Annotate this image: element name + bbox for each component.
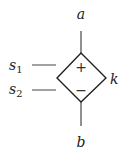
label-s1: s1 <box>9 57 23 75</box>
label-s1-base: s <box>9 57 16 73</box>
label-s2: s2 <box>9 81 23 99</box>
minus-sign: − <box>75 82 87 98</box>
label-a: a <box>77 6 85 22</box>
label-s2-sub: 2 <box>16 88 22 99</box>
label-b: b <box>77 134 86 150</box>
label-k: k <box>110 71 118 87</box>
dependent-source-diagram: + − a b k s1 s2 <box>0 0 124 152</box>
label-s1-sub: 1 <box>16 64 22 75</box>
label-s2-base: s <box>9 81 16 97</box>
plus-sign: + <box>75 59 87 75</box>
